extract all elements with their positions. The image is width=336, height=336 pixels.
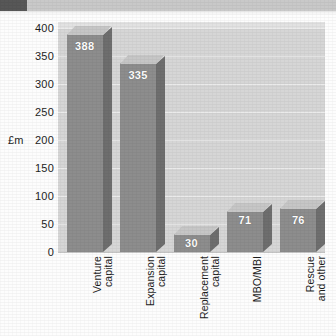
y-axis-tick-label: 400 <box>14 23 54 34</box>
y-axis: 050100150200250300350400 <box>0 0 54 336</box>
x-axis-tick-label: Expansion capital <box>145 256 167 332</box>
bar-value-label: 30 <box>174 237 210 249</box>
bar[interactable]: 71 <box>227 212 263 252</box>
bar-front-face <box>120 63 156 252</box>
y-axis-tick-label: 0 <box>14 247 54 258</box>
y-axis-tick-label: 100 <box>14 191 54 202</box>
bar-front-face <box>67 34 103 252</box>
bar[interactable]: 335 <box>120 64 156 252</box>
y-axis-tick-label: 250 <box>14 107 54 118</box>
bar-side-face <box>263 204 272 252</box>
bar-side-face <box>316 201 325 252</box>
y-axis-tick-label: 50 <box>14 219 54 230</box>
x-axis-tick-label: Rescue and other <box>305 256 327 332</box>
bar[interactable]: 388 <box>67 35 103 252</box>
bar-value-label: 335 <box>120 69 156 81</box>
x-axis-tick-label: Replacement capital <box>199 256 221 332</box>
y-axis-tick-label: 350 <box>14 51 54 62</box>
y-axis-label: £m <box>8 134 24 146</box>
bar-top-face <box>174 226 218 235</box>
bar-value-label: 388 <box>67 40 103 52</box>
y-axis-tick-label: 150 <box>14 163 54 174</box>
x-axis-tick-label: MBO/MBI <box>252 256 263 332</box>
bar-value-label: 71 <box>227 214 263 226</box>
y-axis-tick-label: 300 <box>14 79 54 90</box>
gridline <box>58 252 325 253</box>
bar-side-face <box>103 27 112 252</box>
x-axis-tick-label: Venture capital <box>92 256 114 332</box>
bar-top-face <box>67 26 111 35</box>
bar-value-label: 76 <box>280 214 316 226</box>
bar[interactable]: 76 <box>280 209 316 252</box>
bar-chart-figure: 388335307176 050100150200250300350400 £m… <box>0 0 336 336</box>
plot-area: 388335307176 <box>58 28 325 252</box>
bar-side-face <box>156 56 165 252</box>
bar[interactable]: 30 <box>174 235 210 252</box>
